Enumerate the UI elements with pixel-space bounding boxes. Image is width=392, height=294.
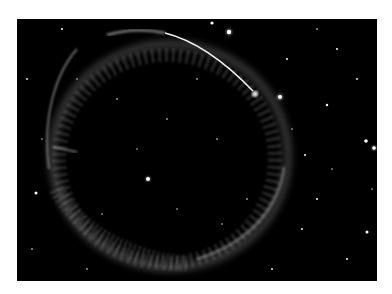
astronomy-photo — [17, 19, 377, 281]
remnant-scene — [17, 19, 377, 281]
